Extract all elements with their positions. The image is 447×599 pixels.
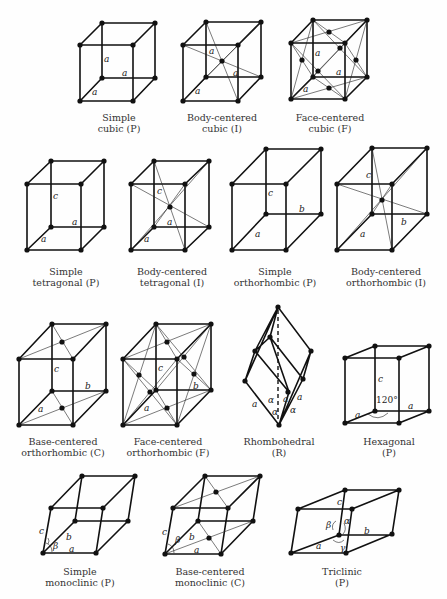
caption-body-centered-cubic: Body-centeredcubic (I) [167, 112, 277, 134]
svg-text:α: α [272, 407, 278, 417]
svg-text:a: a [72, 217, 77, 227]
caption-body-centered-tetragonal: Body-centeredtetragonal (I) [117, 266, 227, 288]
svg-text:a: a [316, 541, 321, 551]
caption-body-centered-orthorhombic: Body-centeredorthorhombic (I) [331, 266, 441, 288]
svg-text:a: a [315, 48, 320, 58]
caption-simple-cubic: Simplecubic (P) [64, 112, 174, 134]
svg-text:a: a [360, 229, 365, 239]
svg-text:α: α [344, 516, 350, 526]
body-centered-orthorhombic-cell: c b a [334, 145, 429, 252]
caption-triclinic: Triclinic(P) [287, 566, 397, 588]
caption-face-centered-cubic: Face-centeredcubic (F) [275, 112, 385, 134]
base-centered-monoclinic-cell: c b a β [162, 473, 263, 556]
svg-text:120°: 120° [376, 395, 398, 405]
svg-text:a: a [297, 392, 302, 402]
svg-text:a: a [209, 46, 214, 56]
simple-orthorhombic-cell: c b a [229, 146, 323, 252]
svg-text:a: a [255, 229, 260, 239]
svg-text:a: a [233, 68, 238, 78]
caption-simple-tetragonal: Simpletetragonal (P) [11, 266, 121, 288]
caption-face-centered-orthorhombic: Face-centeredorthorhombic (F) [113, 436, 223, 458]
face-centered-orthorhombic-cell: c b a [120, 321, 213, 427]
svg-text:b: b [189, 532, 195, 542]
body-centered-tetragonal-cell: c a a [128, 158, 211, 252]
svg-text:c: c [54, 364, 59, 374]
svg-text:a: a [252, 399, 257, 409]
svg-text:a: a [92, 87, 97, 97]
svg-text:γ: γ [340, 543, 346, 553]
svg-text:c: c [162, 527, 167, 537]
svg-text:a: a [144, 234, 149, 244]
svg-text:c: c [268, 188, 273, 198]
svg-text:β: β [52, 541, 58, 551]
svg-text:c: c [366, 170, 371, 180]
svg-text:a: a [408, 401, 413, 411]
svg-text:b: b [85, 381, 91, 391]
svg-text:a: a [41, 234, 46, 244]
svg-text:c: c [158, 363, 163, 373]
base-centered-orthorhombic-cell: c b a [16, 321, 108, 427]
svg-text:a: a [336, 67, 341, 77]
triclinic-cell: c b a α β γ [288, 487, 401, 555]
simple-tetragonal-cell: c a a [24, 158, 106, 252]
hexagonal-cell: c a a 120° [342, 343, 431, 425]
svg-text:a: a [69, 544, 74, 554]
caption-base-centered-monoclinic: Base-centeredmonoclinic (C) [155, 566, 265, 588]
svg-text:α: α [290, 405, 296, 415]
body-centered-cubic-cell: a a a [180, 19, 263, 103]
svg-text:a: a [104, 54, 109, 64]
svg-text:a: a [167, 217, 172, 227]
svg-text:a: a [194, 545, 199, 555]
caption-rhombohedral: Rhombohedral(R) [224, 436, 334, 458]
svg-text:β: β [325, 520, 331, 530]
face-centered-cubic-cell: a a a [288, 17, 369, 101]
svg-text:a: a [195, 86, 200, 96]
svg-text:a: a [122, 68, 127, 78]
svg-text:a: a [355, 410, 360, 420]
svg-text:c: c [53, 191, 58, 201]
simple-monoclinic-cell: c b a β [39, 473, 138, 555]
svg-text:b: b [401, 217, 407, 227]
rhombohedral-cell: a a a α α α [242, 304, 313, 427]
bravais-lattice-figure: a a a a a a a a a [0, 0, 447, 599]
svg-text:a: a [283, 394, 288, 404]
svg-text:c: c [378, 374, 383, 384]
svg-text:a: a [303, 84, 308, 94]
svg-text:b: b [364, 526, 370, 536]
svg-text:c: c [157, 186, 162, 196]
svg-text:b: b [66, 532, 72, 542]
svg-text:b: b [299, 204, 305, 214]
svg-text:α: α [268, 395, 274, 405]
caption-hexagonal: Hexagonal(P) [334, 436, 444, 458]
caption-base-centered-orthorhombic: Base-centeredorthorhombic (C) [8, 436, 118, 458]
svg-text:c: c [337, 497, 342, 507]
svg-text:a: a [144, 403, 149, 413]
svg-text:a: a [38, 404, 43, 414]
simple-cubic-cell: a a a [77, 20, 157, 103]
svg-text:β: β [174, 535, 180, 545]
caption-simple-orthorhombic: Simpleorthorhombic (P) [220, 266, 330, 288]
caption-simple-monoclinic: Simplemonoclinic (P) [25, 566, 135, 588]
svg-text:b: b [193, 381, 199, 391]
svg-text:c: c [39, 526, 44, 536]
